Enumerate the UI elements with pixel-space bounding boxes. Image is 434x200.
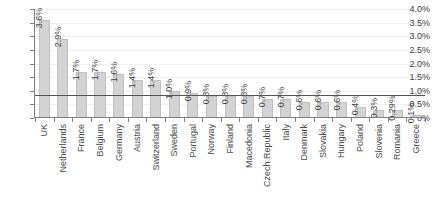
x-category-label: UK [40, 124, 49, 137]
bar-series: 3.6%2.9%1.7%1.7%1.6%1.4%1.4%1.0%0.9%0.8%… [35, 9, 425, 118]
bar-slot: 0.6% [314, 9, 333, 118]
bar-slot: 0.6% [332, 9, 351, 118]
x-tick-mark [72, 118, 73, 122]
x-category-label: Portugal [188, 124, 197, 158]
y-tick-mark [30, 118, 34, 119]
x-category-slot: Netherlands [54, 124, 73, 200]
bar-slot: 0.8% [221, 9, 240, 118]
x-category-label: Germany [114, 124, 123, 161]
bar-slot: 1.7% [72, 9, 91, 118]
x-tick-mark [295, 118, 296, 122]
bar-value-label: 2.9% [54, 27, 63, 48]
bar-value-label: 1.7% [72, 59, 81, 80]
reference-line [35, 95, 425, 96]
bar-slot: 0.6% [295, 9, 314, 118]
x-category-label: Romania [393, 124, 402, 160]
x-category-slot: Slovenia [369, 124, 388, 200]
x-tick-mark [258, 118, 259, 122]
bar-value-label: 0.3% [370, 98, 379, 119]
x-category-label: Macedonia [244, 124, 253, 168]
x-category-slot: Germany [109, 124, 128, 200]
y-tick-mark [30, 91, 34, 92]
x-category-label: Austria [133, 124, 142, 152]
x-category-slot: Hungary [332, 124, 351, 200]
bar-slot: 1.7% [91, 9, 110, 118]
x-axis-category-labels: UKNetherlandsFranceBelgiumGermanyAustria… [35, 124, 425, 200]
x-tick-mark [369, 118, 370, 122]
bar[interactable] [57, 39, 68, 118]
x-tick-mark [184, 118, 185, 122]
bar-value-label: 0.9% [184, 81, 193, 102]
x-category-slot: Portugal [184, 124, 203, 200]
x-category-slot: UK [35, 124, 54, 200]
x-tick-mark [332, 118, 333, 122]
x-axis-baseline [35, 117, 425, 118]
x-tick-mark [314, 118, 315, 122]
x-category-slot: Sweden [165, 124, 184, 200]
x-tick-mark [221, 118, 222, 122]
y-tick-mark [30, 50, 34, 51]
x-category-label: Norway [207, 124, 216, 155]
bar-slot: 0.7% [258, 9, 277, 118]
x-tick-mark [202, 118, 203, 122]
x-category-label: Finland [225, 124, 234, 154]
x-category-slot: Norway [202, 124, 221, 200]
bar-value-label: 0.4% [351, 95, 360, 116]
x-category-slot: Czech Republic [258, 124, 277, 200]
x-category-label: Hungary [337, 124, 346, 158]
bar-slot: 1.0% [165, 9, 184, 118]
bar-slot: 3.6% [35, 9, 54, 118]
bar-value-label: 0.7% [277, 87, 286, 108]
x-category-label: Switzerland [151, 124, 160, 171]
x-category-label: Slovakia [318, 124, 327, 158]
bar-chart: 3.6%2.9%1.7%1.7%1.6%1.4%1.4%1.0%0.9%0.8%… [0, 0, 434, 200]
bar-value-label: 1.4% [128, 68, 137, 89]
x-category-slot: Austria [128, 124, 147, 200]
bar[interactable] [39, 20, 50, 118]
x-category-slot: Denmark [295, 124, 314, 200]
bar-slot: 0.4% [351, 9, 370, 118]
bar-slot: 0.9% [184, 9, 203, 118]
x-category-slot: France [72, 124, 91, 200]
bar-slot: 0.1% [407, 9, 426, 118]
bar-value-label: 0.6% [314, 89, 323, 110]
bar-slot: 0.7% [277, 9, 296, 118]
bar-value-label: 1.7% [91, 59, 100, 80]
x-category-slot: Finland [221, 124, 240, 200]
bar-value-label: 1.0% [165, 78, 174, 99]
y-tick-mark [30, 64, 34, 65]
bar-value-label: 0.1% [407, 103, 416, 124]
x-tick-mark [239, 118, 240, 122]
bar-slot: 1.6% [109, 9, 128, 118]
y-tick-mark [30, 36, 34, 37]
x-tick-mark [146, 118, 147, 122]
x-tick-mark [165, 118, 166, 122]
x-tick-mark [35, 118, 36, 122]
x-category-label: Netherlands [58, 124, 67, 173]
plot-area: 3.6%2.9%1.7%1.7%1.6%1.4%1.4%1.0%0.9%0.8%… [35, 9, 425, 118]
bar-value-label: 0.6% [295, 89, 304, 110]
x-category-slot: Slovakia [314, 124, 333, 200]
x-axis-ticks [35, 118, 425, 123]
bar-slot: 0.3% [369, 9, 388, 118]
bar-slot: 1.4% [128, 9, 147, 118]
x-category-slot: Greece [406, 124, 425, 200]
x-category-label: Greece [411, 124, 420, 154]
x-category-slot: Italy [276, 124, 295, 200]
y-tick-mark [30, 104, 34, 105]
bar-slot: 0.8% [239, 9, 258, 118]
x-category-label: France [77, 124, 86, 152]
bar-value-label: 0.6% [333, 89, 342, 110]
x-category-label: Czech Republic [263, 124, 272, 187]
bar-slot: 0.29% [388, 9, 407, 118]
x-category-label: Sweden [170, 124, 179, 157]
bar-value-label: 1.4% [147, 68, 156, 89]
x-category-label: Italy [281, 124, 290, 141]
bar-value-label: 0.7% [258, 87, 267, 108]
x-category-label: Denmark [300, 124, 309, 161]
x-category-label: Poland [355, 124, 364, 152]
x-tick-mark [91, 118, 92, 122]
x-category-slot: Switzerland [146, 124, 165, 200]
x-category-slot: Macedonia [239, 124, 258, 200]
x-tick-mark [109, 118, 110, 122]
